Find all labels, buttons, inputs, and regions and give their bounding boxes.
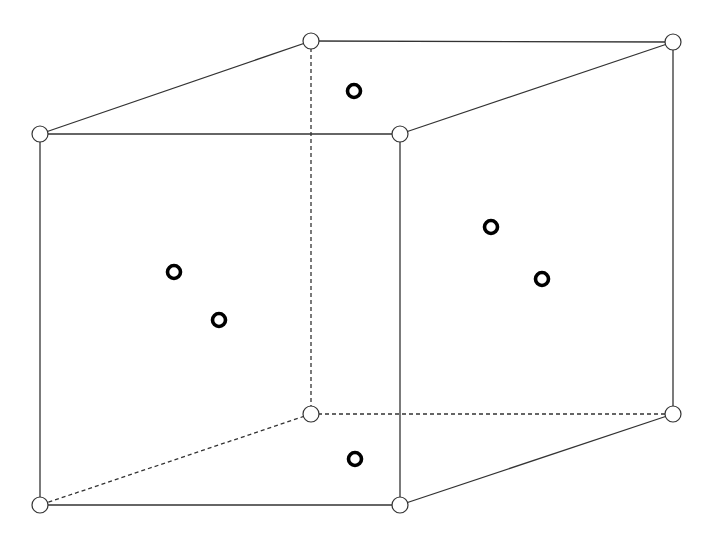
face-atom-top [348, 85, 361, 98]
corner-atom-front-top-left [32, 126, 48, 142]
face-atom-front [213, 314, 226, 327]
corner-atom-front-bottom-right [392, 497, 408, 513]
edge-front-top-right-back-top-right [400, 42, 673, 134]
corner-atom-front-top-right [392, 126, 408, 142]
edge-front-bottom-right-back-bottom-right [400, 414, 673, 505]
corner-atoms [32, 33, 681, 513]
hidden-edges [40, 41, 673, 505]
corner-atom-back-bottom-right [665, 406, 681, 422]
cube-unit-cell-figure [0, 0, 712, 544]
cube-diagram [0, 0, 712, 544]
face-atom-right [536, 273, 549, 286]
face-atom-left [168, 266, 181, 279]
corner-atom-back-top-left [303, 33, 319, 49]
face-center-atoms [168, 85, 549, 466]
corner-atom-front-bottom-left [32, 497, 48, 513]
corner-atom-back-top-right [665, 34, 681, 50]
hidden-edge-back-bottom-left-front-bottom-left [40, 414, 311, 505]
edge-back-top-left-back-top-right [311, 41, 673, 42]
visible-edges [40, 41, 673, 505]
corner-atom-back-bottom-left [303, 406, 319, 422]
face-atom-back [485, 221, 498, 234]
edge-front-top-left-back-top-left [40, 41, 311, 134]
face-atom-bottom [349, 453, 362, 466]
